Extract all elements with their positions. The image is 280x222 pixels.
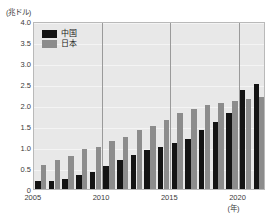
- bar-japan: [177, 113, 182, 189]
- legend-swatch-icon: [42, 40, 57, 48]
- legend-item: 日本: [42, 40, 77, 48]
- bar-group: [213, 22, 224, 189]
- bar-group: [117, 22, 128, 189]
- bar-chart: (兆ドル) 00.51.01.52.02.53.03.54.0 中国日本 200…: [0, 0, 280, 222]
- bar-japan: [191, 109, 196, 189]
- legend-item: 中国: [42, 30, 77, 38]
- legend-swatch-icon: [42, 30, 57, 38]
- bar-china: [131, 155, 136, 189]
- bar-china: [144, 150, 149, 189]
- bar-japan: [41, 165, 46, 189]
- bar-group: [199, 22, 210, 189]
- bar-china: [254, 84, 259, 189]
- y-axis-tick-label: 4.0: [21, 18, 31, 27]
- bar-group: [226, 22, 237, 189]
- bar-japan: [82, 149, 87, 189]
- bar-japan: [246, 99, 251, 189]
- bar-group: [131, 22, 142, 189]
- y-axis-tick-label: 0.5: [21, 165, 31, 174]
- bar-japan: [68, 156, 73, 189]
- bar-china: [185, 139, 190, 189]
- bar-china: [90, 172, 95, 189]
- x-axis-unit-label: (年): [228, 202, 240, 213]
- bar-china: [240, 90, 245, 189]
- bar-group: [254, 22, 265, 189]
- bar-group: [90, 22, 101, 189]
- bar-group: [240, 22, 251, 189]
- y-axis-tick-label: 1.5: [21, 123, 31, 132]
- bar-group: [144, 22, 155, 189]
- bar-china: [172, 143, 177, 189]
- x-axis-tick-label: 2010: [93, 193, 110, 202]
- x-axis-tick-label: 2015: [161, 193, 178, 202]
- bar-japan: [164, 120, 169, 189]
- bar-china: [49, 181, 54, 189]
- bar-japan: [137, 130, 142, 189]
- chart-legend: 中国日本: [42, 30, 77, 50]
- bar-china: [35, 181, 40, 189]
- x-axis-tick-label: 2020: [229, 193, 246, 202]
- bar-japan: [123, 137, 128, 190]
- y-axis-tick-label: 3.5: [21, 39, 31, 48]
- legend-label: 日本: [61, 40, 77, 48]
- bar-china: [117, 160, 122, 189]
- bar-japan: [96, 147, 101, 189]
- legend-label: 中国: [61, 30, 77, 38]
- bar-japan: [109, 141, 114, 189]
- bar-china: [199, 130, 204, 189]
- bar-china: [158, 147, 163, 189]
- bar-japan: [55, 160, 60, 189]
- bar-japan: [150, 126, 155, 189]
- bar-japan: [218, 103, 223, 189]
- bar-group: [103, 22, 114, 189]
- bar-china: [103, 166, 108, 189]
- bar-group: [158, 22, 169, 189]
- y-axis-unit-label: (兆ドル): [6, 6, 31, 17]
- bar-group: [185, 22, 196, 189]
- y-axis-tick-label: 3.0: [21, 60, 31, 69]
- bar-group: [76, 22, 87, 189]
- bar-group: [172, 22, 183, 189]
- y-axis-tick-label: 2.5: [21, 81, 31, 90]
- bar-japan: [205, 105, 210, 189]
- bar-china: [62, 179, 67, 190]
- bar-china: [76, 175, 81, 189]
- bar-china: [213, 122, 218, 189]
- y-axis-tick-label: 1.0: [21, 144, 31, 153]
- y-axis-tick-label: 2.0: [21, 102, 31, 111]
- bar-japan: [232, 101, 237, 189]
- x-axis-tick-label: 2005: [24, 193, 41, 202]
- bar-japan: [259, 97, 264, 189]
- bar-china: [226, 113, 231, 189]
